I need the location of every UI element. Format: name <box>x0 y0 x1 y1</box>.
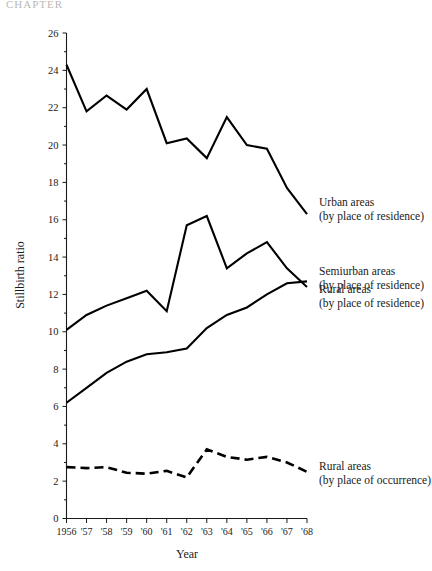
stillbirth-ratio-line-chart: 02468101214161820222426 1956'57'58'59'60… <box>0 0 432 571</box>
y-tick-label: 12 <box>48 289 59 300</box>
series-line-2 <box>67 281 308 402</box>
y-tick-label: 8 <box>53 364 58 375</box>
y-tick-label: 16 <box>48 214 59 225</box>
x-axis-title: Year <box>176 547 198 561</box>
y-tick-label: 0 <box>53 513 58 524</box>
axis-lines <box>67 33 308 519</box>
series-line-3 <box>67 449 308 477</box>
series-line-1 <box>67 216 308 330</box>
x-axis-ticks: 1956'57'58'59'60'61'62'63'64'65'66'67'68 <box>57 519 313 537</box>
x-tick-label: '58 <box>101 526 113 537</box>
x-tick-label: '59 <box>121 526 133 537</box>
annotation-line-1: Semiurban areas <box>319 265 396 277</box>
annotation-line-2: (by place of residence) <box>319 210 424 223</box>
series-annotation-0: Urban areas(by place of residence) <box>319 196 424 223</box>
x-tick-label: '63 <box>201 526 213 537</box>
x-tick-label: '65 <box>241 526 253 537</box>
y-tick-label: 10 <box>48 326 59 337</box>
chart-canvas: 02468101214161820222426 1956'57'58'59'60… <box>0 0 432 571</box>
x-tick-label: '61 <box>161 526 173 537</box>
y-tick-label: 2 <box>53 476 58 487</box>
annotation-line-1: Urban areas <box>319 196 375 208</box>
x-tick-label: '66 <box>261 526 273 537</box>
y-tick-label: 6 <box>53 401 58 412</box>
chart-axes <box>67 33 308 519</box>
x-tick-label: '67 <box>281 526 293 537</box>
annotation-line-2: (by place of occurrence) <box>319 474 431 487</box>
y-axis-title: Stillbirth ratio <box>13 241 27 309</box>
annotation-line-1: Rural areas <box>319 283 372 295</box>
x-tick-label: '68 <box>301 526 313 537</box>
x-tick-label: '64 <box>221 526 233 537</box>
annotation-line-2: (by place of residence) <box>319 297 424 310</box>
chart-series-group <box>67 65 308 478</box>
y-tick-label: 18 <box>48 177 59 188</box>
y-tick-label: 4 <box>53 438 59 449</box>
y-tick-label: 26 <box>48 28 59 39</box>
series-line-0 <box>67 65 308 214</box>
y-axis-ticks: 02468101214161820222426 <box>48 28 67 524</box>
y-tick-label: 20 <box>48 140 59 151</box>
y-tick-label: 22 <box>48 102 59 113</box>
x-tick-label: '62 <box>181 526 193 537</box>
y-tick-label: 24 <box>48 65 59 76</box>
y-tick-label: 14 <box>48 252 59 263</box>
chart-annotations-group: Urban areas(by place of residence)Semiur… <box>319 196 431 487</box>
annotation-line-1: Rural areas <box>319 460 372 472</box>
x-tick-label: 1956 <box>57 526 77 537</box>
x-tick-label: '60 <box>141 526 153 537</box>
x-tick-label: '57 <box>81 526 93 537</box>
series-annotation-3: Rural areas(by place of occurrence) <box>319 460 431 487</box>
